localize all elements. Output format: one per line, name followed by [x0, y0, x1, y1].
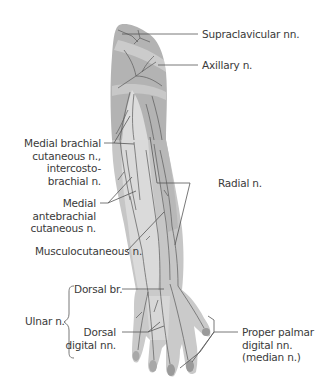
label-line: Medial — [30, 197, 96, 210]
label-ulnar-n: Ulnar n. — [25, 315, 65, 328]
label-dorsal-digital-nn: Dorsal digital nn. — [66, 326, 116, 351]
label-musculocutaneous-n: Musculocutaneous n. — [35, 245, 142, 258]
label-axillary-n: Axillary n. — [202, 59, 252, 72]
thumb-tip — [202, 328, 210, 336]
label-line: intercosto- — [24, 162, 101, 175]
label-dorsal-br: Dorsal br. — [74, 283, 122, 296]
label-line: brachial n. — [24, 175, 101, 188]
label-line: Dorsal — [66, 326, 116, 339]
label-medial-brachial-cutaneous: Medial brachial cutaneous n., intercosto… — [24, 137, 101, 187]
label-line: digital nn. — [66, 339, 116, 352]
label-proper-palmar-digital-nn: Proper palmar digital nn. (median n.) — [242, 326, 314, 364]
label-medial-antebrachial-cutaneous: Medial antebrachial cutaneous n. — [30, 197, 96, 235]
label-radial-n: Radial n. — [218, 177, 262, 190]
fingertip-ring — [149, 360, 157, 372]
arm-silhouette — [111, 24, 211, 377]
hand-highlights — [146, 296, 170, 340]
label-line: antebrachial — [30, 210, 96, 223]
label-line: cutaneous n., — [24, 150, 101, 163]
label-supraclavicular-nn: Supraclavicular nn. — [202, 28, 299, 41]
label-line: digital nn. — [242, 339, 314, 352]
label-line: cutaneous n. — [30, 222, 96, 235]
label-line: Medial brachial — [24, 137, 101, 150]
hand-shape — [132, 290, 211, 377]
fingertip-middle — [167, 364, 175, 376]
fingertip-little — [133, 351, 140, 361]
label-line: (median n.) — [242, 351, 314, 364]
label-line: Proper palmar — [242, 326, 314, 339]
